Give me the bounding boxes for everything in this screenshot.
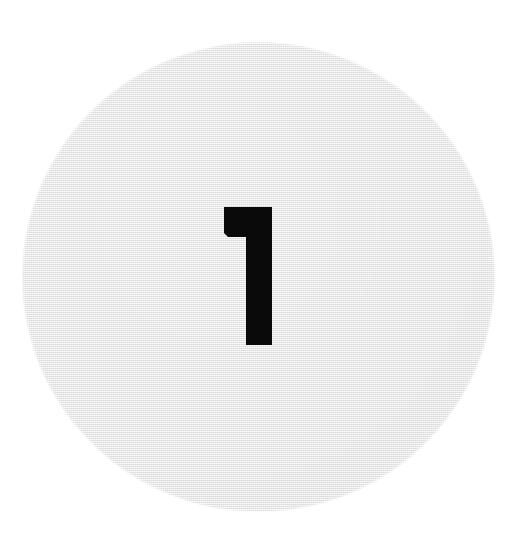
numeral-one-shape <box>222 205 276 347</box>
image-canvas: 1 <box>0 0 525 534</box>
numeral-one-path <box>224 207 272 345</box>
numeral-one-glyph: 1 <box>222 205 276 347</box>
